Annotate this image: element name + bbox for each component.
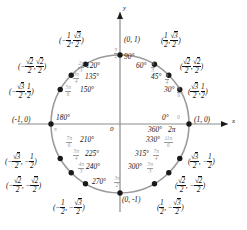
point-0deg xyxy=(186,121,191,126)
radian-label-240deg: 4π3 xyxy=(78,162,84,174)
unit-circle-figure: y x 0 (0, 1) (1, 0) (-1, 0) (0, -1) (12,… xyxy=(0,0,247,230)
radian-label-360deg: 2π xyxy=(168,126,175,133)
point-240deg xyxy=(83,181,88,186)
degree-label-360deg: 360° xyxy=(148,126,162,133)
radian-label-135deg: 3π4 xyxy=(73,72,79,84)
radian-label-300deg: 5π3 xyxy=(147,162,153,174)
y-axis-arrow xyxy=(117,12,123,19)
degree-label-135deg: 135° xyxy=(85,73,99,80)
radian-label-210deg: 7π6 xyxy=(66,136,72,148)
degree-label-150deg: 150° xyxy=(80,86,94,93)
coord-label-135deg: (−√22,√22) xyxy=(18,57,46,74)
degree-label-315deg: 315° xyxy=(135,150,149,157)
degree-label-0deg: 0° xyxy=(162,114,169,121)
coord-label-240deg: (−12, −√32) xyxy=(53,198,85,215)
x-axis-label: x xyxy=(232,118,235,125)
coord-label-330deg: (√32, −12) xyxy=(188,152,215,169)
x-axis-arrow xyxy=(221,121,228,127)
coord-label-210deg: (−√32, −12) xyxy=(5,152,37,169)
radian-label-90deg: π2 xyxy=(114,47,118,59)
radian-label-45deg: π4 xyxy=(165,73,169,85)
radian-label-315deg: 7π4 xyxy=(153,149,159,161)
radian-label-0deg: 0 xyxy=(177,115,180,120)
degree-label-120deg: 120° xyxy=(86,62,100,69)
y-axis-label: y xyxy=(123,5,126,12)
radian-label-60deg: π3 xyxy=(151,61,155,73)
point-330deg xyxy=(177,156,182,161)
coord-label-90deg: (0, 1) xyxy=(124,36,140,43)
degree-label-300deg: 300° xyxy=(128,163,142,170)
coord-label-120deg: (−12,√32) xyxy=(59,31,84,48)
degree-label-30deg: 30° xyxy=(164,86,174,93)
point-225deg xyxy=(69,170,74,175)
point-300deg xyxy=(152,181,157,186)
degree-label-60deg: 60° xyxy=(136,62,146,69)
radian-label-225deg: 5π4 xyxy=(73,149,79,161)
coord-label-300deg: (12, −√32) xyxy=(157,198,184,215)
degree-label-330deg: 330° xyxy=(146,136,160,143)
origin-label: 0 xyxy=(110,126,114,133)
coord-label-315deg: (√22, −√22) xyxy=(175,176,205,193)
coord-label-45deg: (√22,√22) xyxy=(180,57,203,74)
radian-label-330deg: 11π6 xyxy=(164,136,173,148)
radian-label-30deg: π6 xyxy=(177,86,181,98)
radian-label-150deg: 5π6 xyxy=(65,85,71,97)
degree-label-225deg: 225° xyxy=(85,150,99,157)
coord-label-0deg: (1, 0) xyxy=(194,116,210,123)
degree-label-210deg: 210° xyxy=(80,136,94,143)
coord-label-270deg: (0, -1) xyxy=(122,196,141,203)
coord-label-150deg: (−√32,12) xyxy=(9,82,34,99)
coord-label-225deg: (−√22, −√22) xyxy=(6,176,41,193)
point-210deg xyxy=(58,156,63,161)
point-90deg xyxy=(117,52,122,57)
coord-label-60deg: (12,√32) xyxy=(161,31,181,48)
radian-label-180deg: π xyxy=(54,127,57,132)
degree-label-270deg: 270° xyxy=(92,178,106,185)
point-315deg xyxy=(166,170,171,175)
point-180deg xyxy=(48,121,53,126)
degree-label-180deg: 180° xyxy=(56,114,70,121)
coord-label-180deg: (-1, 0) xyxy=(12,116,31,123)
point-150deg xyxy=(58,87,63,92)
degree-label-240deg: 240° xyxy=(86,163,100,170)
coord-label-30deg: (√32,12) xyxy=(188,82,208,99)
radian-label-270deg: 3π2 xyxy=(114,176,120,188)
degree-label-45deg: 45° xyxy=(151,73,161,80)
degree-label-90deg: 90° xyxy=(124,53,134,60)
